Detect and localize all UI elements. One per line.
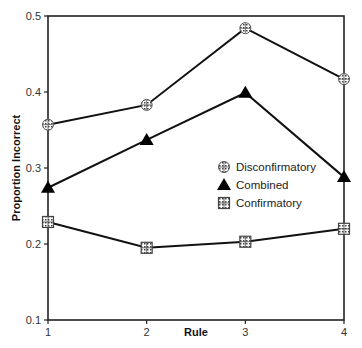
legend-label: Confirmatory [236, 197, 302, 209]
x-tick-label: 3 [242, 326, 248, 338]
x-tick-label: 1 [45, 326, 51, 338]
y-tick-label: 0.5 [26, 10, 41, 22]
x-tick-label: 4 [341, 326, 347, 338]
legend-label: Disconfirmatory [236, 161, 316, 173]
x-axis-label: Rule [184, 326, 208, 338]
triangle-marker [238, 86, 252, 98]
x-tick-label: 2 [144, 326, 150, 338]
y-tick-label: 0.3 [26, 162, 41, 174]
line-chart: 0.10.20.30.40.51234 DisconfirmatoryCombi… [0, 0, 362, 348]
series-markers [41, 23, 351, 254]
triangle-marker [217, 178, 231, 190]
triangle-marker [140, 133, 154, 145]
legend: DisconfirmatoryCombinedConfirmatory [217, 161, 316, 209]
y-axis-label: Proportion Incorrect [10, 114, 22, 221]
y-tick-label: 0.1 [26, 314, 41, 326]
series-line [48, 28, 344, 125]
legend-label: Combined [236, 179, 288, 191]
y-tick-label: 0.4 [26, 86, 41, 98]
series-line [48, 93, 344, 188]
series-lines [48, 28, 344, 248]
triangle-marker [41, 181, 55, 193]
series-line [48, 222, 344, 248]
y-tick-label: 0.2 [26, 238, 41, 250]
plot-axes: 0.10.20.30.40.51234 [26, 10, 347, 338]
